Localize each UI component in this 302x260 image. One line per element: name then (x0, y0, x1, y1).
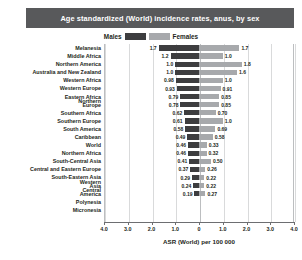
bar-female (199, 142, 207, 147)
chart-root: Age standardized (World) incidence rates… (0, 0, 302, 260)
x-tick (175, 222, 176, 225)
chart-title-banner: Age standardized (World) incidence rates… (26, 8, 294, 28)
category-label: CentralAmerica (0, 188, 101, 196)
value-label-male: 0.98 (150, 77, 174, 83)
category-label: Northern America (0, 62, 101, 66)
value-label-female: 1.0 (225, 118, 232, 124)
bar-male (180, 94, 199, 99)
table-row: CentralAmerica0.190.27 (0, 190, 302, 198)
category-label: Polynesia (0, 200, 101, 204)
legend-swatch-males (125, 33, 146, 40)
table-row: Northern Africa0.460.32 (0, 149, 302, 157)
bar-rows: Melanesia1.71.7Middle Africa1.21.0Northe… (0, 44, 302, 222)
table-row: Western Europe0.930.91 (0, 84, 302, 92)
table-row: Middle Africa1.21.0 (0, 52, 302, 60)
value-label-female: 0.26 (207, 166, 217, 172)
category-label: Central and Eastern Europe (0, 167, 101, 171)
bar-male (180, 102, 199, 107)
bar-female (199, 102, 219, 107)
bar-male (187, 134, 199, 139)
bar-male (188, 142, 199, 147)
category-label: Northern Africa (0, 151, 101, 155)
value-label-female: 1.0 (225, 53, 232, 59)
value-label-male: 1.0 (149, 61, 173, 67)
legend-label-males: Males (104, 33, 122, 40)
bar-male (171, 53, 200, 58)
value-label-male: 0.79 (154, 94, 178, 100)
bar-female (199, 45, 239, 50)
bar-female (199, 86, 221, 91)
bar-female (199, 183, 204, 188)
category-label: Caribbean (0, 135, 101, 139)
table-row: South-Central Asia0.410.50 (0, 157, 302, 165)
x-tick (104, 222, 105, 225)
bar-female (199, 110, 216, 115)
x-tick (270, 222, 271, 225)
table-row: Southern Africa0.620.70 (0, 109, 302, 117)
category-label: South America (0, 127, 101, 131)
category-label: Melanesia (0, 46, 101, 50)
value-label-male: 0.78 (154, 102, 178, 108)
bar-male (184, 110, 199, 115)
x-tick (128, 222, 129, 225)
table-row: Melanesia1.71.7 (0, 44, 302, 52)
bar-male (175, 62, 199, 67)
bar-female (199, 126, 215, 131)
value-label-male: 0.93 (151, 86, 175, 92)
value-label-male: 0.46 (162, 150, 186, 156)
legend-swatch-females (149, 33, 170, 40)
bar-female (199, 167, 205, 172)
value-label-male: 0.29 (166, 175, 190, 181)
x-tick (223, 222, 224, 225)
value-label-male: 1.0 (149, 69, 173, 75)
value-label-male: 1.2 (145, 53, 169, 59)
x-tick-label: 4.0 (94, 226, 114, 232)
table-row: South America0.580.69 (0, 125, 302, 133)
value-label-female: 0.85 (221, 102, 231, 108)
x-tick-label: 2.0 (237, 226, 257, 232)
x-tick (294, 222, 295, 225)
bar-female (199, 62, 242, 67)
bar-female (199, 53, 223, 58)
value-label-male: 0.49 (161, 134, 185, 140)
bar-female (199, 70, 237, 75)
value-label-female: 0.69 (217, 126, 227, 132)
x-tick (152, 222, 153, 225)
table-row: Micronesia (0, 206, 302, 214)
value-label-male: 0.62 (158, 110, 182, 116)
category-label: Western Africa (0, 78, 101, 82)
x-tick (199, 222, 200, 225)
bar-female (199, 175, 204, 180)
table-row: Caribbean0.490.58 (0, 133, 302, 141)
value-label-female: 0.70 (218, 110, 228, 116)
bar-male (176, 78, 199, 83)
value-label-female: 0.32 (209, 150, 219, 156)
bar-male (185, 126, 199, 131)
value-label-female: 1.6 (239, 69, 246, 75)
page-title: Age standardized (World) incidence rates… (60, 14, 259, 23)
x-tick (247, 222, 248, 225)
bar-female (199, 134, 213, 139)
value-label-male: 0.19 (168, 191, 192, 197)
x-tick-label: 3.0 (260, 226, 280, 232)
chart-legend: Males Females (0, 31, 302, 42)
category-label: Southern Africa (0, 111, 101, 115)
value-label-male: 0.61 (159, 118, 183, 124)
value-label-male: 0.41 (163, 158, 187, 164)
value-label-female: 1.8 (244, 61, 251, 67)
bar-male (188, 151, 199, 156)
x-tick-label: 2.0 (142, 226, 162, 232)
value-label-male: 0.37 (164, 166, 188, 172)
value-label-male: 0.46 (162, 142, 186, 148)
value-label-female: 0.58 (215, 134, 225, 140)
table-row: Central and Eastern Europe0.370.26 (0, 165, 302, 173)
category-label: Middle Africa (0, 54, 101, 58)
category-label: Southern Europe (0, 119, 101, 123)
table-row: Northern America1.01.8 (0, 60, 302, 68)
category-label: NorthernEurope (0, 99, 101, 107)
value-label-male: 1.7 (133, 45, 157, 51)
value-label-male: 0.24 (167, 183, 191, 189)
table-row: Polynesia (0, 198, 302, 206)
bar-male (175, 70, 199, 75)
value-label-female: 1.0 (225, 77, 232, 83)
